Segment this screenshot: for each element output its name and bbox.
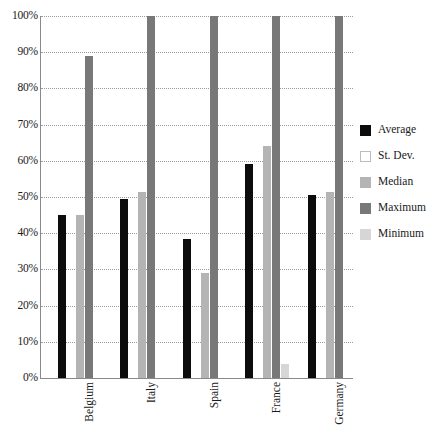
legend-item-st-dev[interactable]: St. Dev. (360, 143, 440, 169)
bar-chart: 100%90%80%70%60%50%40%30%20%10%0% Belgiu… (0, 0, 440, 437)
x-axis-tick-label-germany: Germany (334, 382, 346, 425)
legend-swatch-icon (360, 151, 371, 162)
legend-item-label: Average (378, 124, 416, 136)
legend-item-maximum[interactable]: Maximum (360, 195, 440, 221)
legend-swatch-icon (360, 177, 371, 188)
legend-swatch-icon (360, 203, 371, 214)
legend-item-minimum[interactable]: Minimum (360, 221, 440, 247)
x-axis-tick-label-belgium: Belgium (84, 382, 96, 422)
legend-item-median[interactable]: Median (360, 169, 440, 195)
x-axis-tick-label-italy: Italy (146, 382, 158, 403)
legend-item-label: Maximum (378, 202, 426, 214)
legend-item-average[interactable]: Average (360, 117, 440, 143)
legend-swatch-icon (360, 229, 371, 240)
legend-item-label: St. Dev. (378, 150, 415, 162)
legend-item-label: Median (378, 176, 413, 188)
x-axis-tick-label-france: France (271, 382, 283, 413)
x-axis-tick-label-spain: Spain (209, 382, 221, 408)
legend-swatch-icon (360, 125, 371, 136)
legend: AverageSt. Dev.MedianMaximumMinimum (360, 117, 440, 247)
legend-item-label: Minimum (378, 228, 424, 240)
